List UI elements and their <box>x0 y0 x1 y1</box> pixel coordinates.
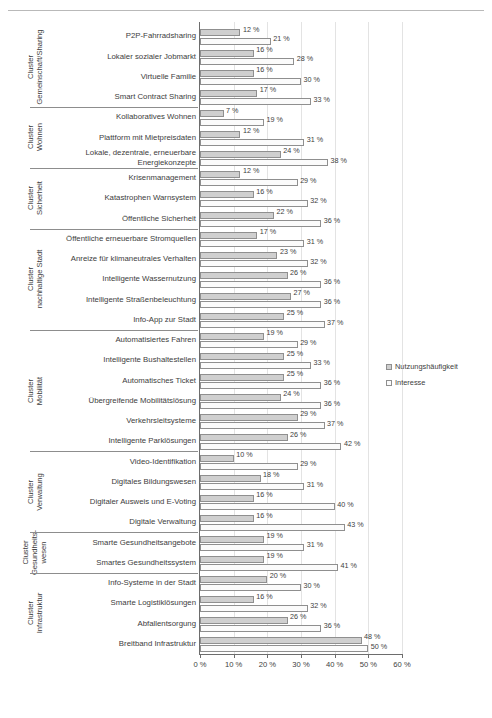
category-label: Krisenmanagement <box>52 168 196 188</box>
bar-interesse <box>200 402 321 409</box>
bar-value-label: 36 % <box>324 298 340 306</box>
bar-interesse <box>200 301 321 308</box>
bar-value-label: 29 % <box>300 410 316 418</box>
bar-value-label: 50 % <box>371 643 387 651</box>
bar-value-label: 37 % <box>327 319 343 327</box>
bar-value-label: 10 % <box>236 451 252 459</box>
category-label: Smartes Gesundheitssystem <box>52 553 196 573</box>
bar-nutzungshaeufigkeit <box>200 131 240 138</box>
bar-nutzungshaeufigkeit <box>200 212 274 219</box>
bar-nutzungshaeufigkeit <box>200 110 224 117</box>
cluster-label-text: ClusterWohnen <box>26 123 44 151</box>
category-label: Öffentliche erneuerbare Stromquellen <box>52 229 196 249</box>
bar-nutzungshaeufigkeit <box>200 394 281 401</box>
bar-value-label: 29 % <box>300 339 316 347</box>
bar-interesse <box>200 240 304 247</box>
category-label: Öffentliche Sicherheit <box>52 208 196 228</box>
bar-value-label: 26 % <box>290 269 306 277</box>
bar-value-label: 23 % <box>280 248 296 256</box>
cluster-group-label: ClusterSicherheit <box>18 168 52 229</box>
bar-value-label: 26 % <box>290 613 306 621</box>
x-axis-tick-label: 60 % <box>382 660 422 669</box>
bar-value-label: 24 % <box>283 390 299 398</box>
category-label: Katastrophen Warnsystem <box>52 188 196 208</box>
bar-value-label: 27 % <box>293 289 309 297</box>
category-label: Automatisiertes Fahren <box>52 330 196 350</box>
bar-value-label: 19 % <box>266 532 282 540</box>
bar-interesse <box>200 159 328 166</box>
cluster-group-label: ClusterGesundheits-wesen <box>18 532 52 573</box>
bar-value-label: 38 % <box>330 157 346 165</box>
bar-interesse <box>200 645 368 652</box>
cluster-separator <box>30 107 198 108</box>
bar-interesse <box>200 98 311 105</box>
bar-interesse <box>200 605 308 612</box>
category-label: Smart Contract Sharing <box>52 87 196 107</box>
bar-value-label: 32 % <box>310 602 326 610</box>
bar-value-label: 29 % <box>300 460 316 468</box>
bar-nutzungshaeufigkeit <box>200 617 288 624</box>
category-label: Kollaboratives Wohnen <box>52 107 196 127</box>
bar-value-label: 12 % <box>243 127 259 135</box>
bar-interesse <box>200 503 335 510</box>
bar-value-label: 29 % <box>300 177 316 185</box>
bar-nutzungshaeufigkeit <box>200 171 240 178</box>
bar-value-label: 16 % <box>256 188 272 196</box>
bar-value-label: 18 % <box>263 471 279 479</box>
x-gridline <box>368 22 369 654</box>
bar-nutzungshaeufigkeit <box>200 414 298 421</box>
bar-value-label: 16 % <box>256 491 272 499</box>
header-divider <box>8 10 484 11</box>
category-label: Info-App zur Stadt <box>52 310 196 330</box>
category-label: Digitales Bildungswesen <box>52 472 196 492</box>
bar-interesse <box>200 524 345 531</box>
bar-value-label: 24 % <box>283 147 299 155</box>
bar-interesse <box>200 362 311 369</box>
bar-nutzungshaeufigkeit <box>200 536 264 543</box>
x-axis-tick <box>368 654 369 658</box>
bar-interesse <box>200 584 301 591</box>
bar-interesse <box>200 281 321 288</box>
category-label: Video-Identifikation <box>52 451 196 471</box>
x-gridline <box>402 22 403 654</box>
cluster-separator <box>30 451 198 452</box>
category-label: Virtuelle Familie <box>52 67 196 87</box>
x-axis-tick <box>335 654 336 658</box>
cluster-group-label: ClusterVerwaltung <box>18 451 52 532</box>
bar-value-label: 41 % <box>341 562 357 570</box>
bar-value-label: 16 % <box>256 593 272 601</box>
legend-swatch-icon <box>386 380 392 386</box>
bar-value-label: 43 % <box>347 521 363 529</box>
cluster-label-text: ClusterGemeinschaft/Sharing <box>26 29 44 104</box>
bar-interesse <box>200 422 325 429</box>
category-label: P2P-Fahrradsharing <box>52 26 196 46</box>
bar-interesse <box>200 58 294 65</box>
category-label: Lokale, dezentrale, erneuerbare Energiek… <box>52 148 196 168</box>
cluster-label-text: ClusterMobilität <box>26 376 44 404</box>
bar-nutzungshaeufigkeit <box>200 333 264 340</box>
bar-value-label: 28 % <box>297 55 313 63</box>
bar-interesse <box>200 483 304 490</box>
bar-value-label: 37 % <box>327 420 343 428</box>
bar-value-label: 25 % <box>287 309 303 317</box>
bar-value-label: 22 % <box>277 208 293 216</box>
x-axis-tick <box>200 654 201 658</box>
bar-value-label: 32 % <box>310 197 326 205</box>
bar-interesse <box>200 544 304 551</box>
bar-nutzungshaeufigkeit <box>200 151 281 158</box>
category-label: Smarte Gesundheitsangebote <box>52 532 196 552</box>
category-label: Digitale Verwaltung <box>52 512 196 532</box>
chart-legend: NutzungshäufigkeitInteresse <box>386 362 490 394</box>
category-label: Digitaler Ausweis und E-Voting <box>52 492 196 512</box>
bar-interesse <box>200 564 338 571</box>
chart-page: ClusterGemeinschaft/SharingClusterWohnen… <box>0 0 492 718</box>
bar-value-label: 42 % <box>344 440 360 448</box>
bar-interesse <box>200 220 321 227</box>
cluster-group-label: ClusterGemeinschaft/Sharing <box>18 26 52 107</box>
bar-interesse <box>200 382 321 389</box>
legend-item-usage[interactable]: Nutzungshäufigkeit <box>386 362 490 371</box>
x-axis-tick <box>402 654 403 658</box>
legend-item-interest[interactable]: Interesse <box>386 378 490 387</box>
bar-value-label: 36 % <box>324 217 340 225</box>
cluster-label-text: ClusterVerwaltung <box>26 473 44 511</box>
